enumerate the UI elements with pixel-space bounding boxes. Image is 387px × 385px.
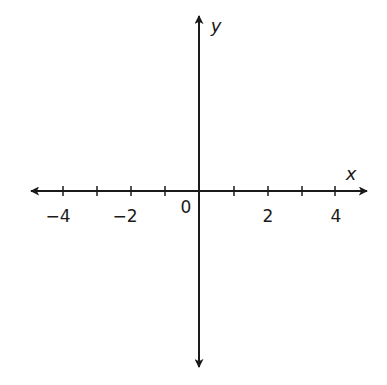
y-axis-label: y: [210, 15, 222, 36]
tick-label-2: 2: [263, 206, 274, 226]
tick-label-neg2: −2: [112, 206, 137, 226]
tick-label-neg4: −4: [45, 206, 70, 226]
x-axis-tick-labels: −4 −2 2 4: [45, 206, 341, 226]
origin-label: 0: [181, 197, 192, 217]
x-axis-label: x: [345, 163, 357, 184]
tick-label-4: 4: [331, 206, 342, 226]
coordinate-plane: −4 −2 2 4 0 x y: [0, 0, 387, 385]
